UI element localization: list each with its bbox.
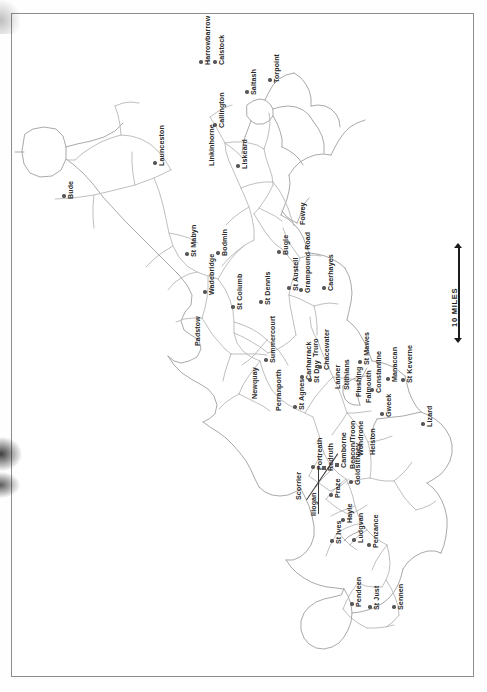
place-marker xyxy=(264,358,267,361)
place-marker xyxy=(231,305,234,308)
place-label: Fowey xyxy=(300,202,308,225)
place-label: Lanner xyxy=(335,365,343,389)
place-marker xyxy=(203,290,206,293)
place-label: Camborne xyxy=(341,432,349,468)
place-label: Chacewater xyxy=(324,329,332,370)
place-label: Sennen xyxy=(398,584,406,610)
place-label: Praze xyxy=(335,479,343,498)
place-label: Manaccan xyxy=(392,347,400,382)
place-marker xyxy=(329,493,332,496)
place-marker xyxy=(153,161,156,164)
scanned-map-page: 10 MILES BudeLauncestonHarrowbarrowCalst… xyxy=(0,0,487,692)
cornwall-map-artwork xyxy=(11,13,474,677)
place-label: Falmouth xyxy=(366,370,374,403)
place-marker xyxy=(62,194,65,197)
place-marker xyxy=(401,378,404,381)
place-marker xyxy=(300,375,303,378)
place-label: Gweek xyxy=(386,394,394,417)
place-label: Bodmin xyxy=(222,229,230,256)
place-label: Bugle xyxy=(283,235,291,255)
place-label: St Columb xyxy=(237,274,245,310)
scale-arrow-bottom xyxy=(454,338,462,343)
place-label: St Ives xyxy=(336,520,344,544)
place-marker xyxy=(322,286,325,289)
scale-bar-label: 10 MILES xyxy=(450,288,459,327)
place-label: Saltash xyxy=(251,69,259,95)
place-label: Illogan xyxy=(311,492,319,516)
place-marker xyxy=(213,60,216,63)
place-marker xyxy=(350,602,353,605)
place-marker xyxy=(368,605,371,608)
place-label: Helston xyxy=(370,428,378,455)
place-label: Summercourt xyxy=(270,316,278,363)
place-marker xyxy=(293,405,296,408)
place-marker xyxy=(287,286,290,289)
place-label: St Mabyn xyxy=(191,225,199,257)
scale-bar: 10 MILES xyxy=(452,243,466,343)
place-marker xyxy=(236,164,239,167)
place-marker xyxy=(380,412,383,415)
place-marker xyxy=(268,78,271,81)
place-label: Penzance xyxy=(373,514,381,548)
place-marker xyxy=(318,365,321,368)
place-label: Pendeen xyxy=(356,577,364,607)
place-marker xyxy=(277,250,280,253)
place-label: Constantine xyxy=(376,351,384,393)
place-label: Calstock xyxy=(219,35,227,65)
place-marker xyxy=(367,543,370,546)
place-marker xyxy=(352,538,355,541)
place-marker xyxy=(421,422,424,425)
place-label: St Agnes xyxy=(299,379,307,410)
place-marker xyxy=(216,251,219,254)
coastline-group xyxy=(15,73,452,649)
place-label: Newquay xyxy=(252,367,260,399)
place-marker xyxy=(349,480,352,483)
place-label: Scorrier xyxy=(296,472,304,500)
place-label: Linkinhorne xyxy=(209,124,217,166)
place-marker xyxy=(308,378,311,381)
place-label: St Dennis xyxy=(265,271,273,305)
place-marker xyxy=(185,252,188,255)
place-marker xyxy=(259,300,262,303)
place-marker xyxy=(358,360,361,363)
place-label: St Keverne xyxy=(407,345,415,383)
place-label: Wadebridge xyxy=(209,254,217,295)
place-marker xyxy=(322,466,326,470)
place-label: Harrowbarrow xyxy=(205,16,213,65)
place-label: Grampound Road xyxy=(305,232,313,293)
place-label: Goldsithney xyxy=(355,443,363,485)
place-label: Hayle xyxy=(347,504,355,523)
place-label: St Day xyxy=(314,360,322,383)
place-label: Perranporth xyxy=(276,369,284,411)
place-label: Caerhayes xyxy=(328,254,336,291)
place-label: Callington xyxy=(219,92,227,128)
place-marker xyxy=(392,605,395,608)
place-label: St Austell xyxy=(293,258,301,291)
place-label: St Just xyxy=(374,586,382,610)
place-marker xyxy=(370,388,373,391)
place-label: Torpoint xyxy=(274,54,282,83)
place-label: Ludgvan xyxy=(358,513,366,543)
place-label: Lizard xyxy=(427,406,435,428)
place-label: St Mawes xyxy=(364,332,372,365)
place-marker xyxy=(330,539,333,542)
place-label: Padstow xyxy=(195,316,203,346)
place-marker xyxy=(299,288,302,291)
place-label: Launceston xyxy=(159,125,167,166)
scale-arrow-top xyxy=(454,243,462,248)
place-label: Truro xyxy=(313,338,321,357)
place-label: Stithians xyxy=(344,359,352,390)
place-label: Liskeard xyxy=(242,139,250,169)
place-marker xyxy=(386,377,389,380)
place-marker xyxy=(245,90,248,93)
place-marker xyxy=(335,463,339,467)
place-label: Bude xyxy=(68,181,76,199)
place-marker xyxy=(199,60,202,63)
place-label: Flushing xyxy=(356,367,364,397)
place-marker xyxy=(311,465,314,468)
